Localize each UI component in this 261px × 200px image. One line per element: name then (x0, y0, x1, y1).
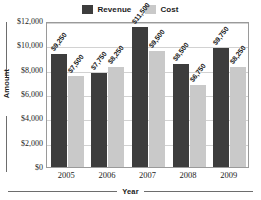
bar-revenue-2008 (173, 64, 189, 167)
x-axis-rule-right (144, 191, 253, 192)
bar-value-label: $9,500 (147, 29, 165, 50)
bar-value-label: $7,500 (66, 53, 84, 74)
y-axis-tick-label: $2,000 (3, 140, 43, 148)
bar-value-label: $8,250 (229, 44, 247, 65)
bar-group: $9,250$7,500 (51, 23, 84, 167)
bar-revenue-2009 (213, 48, 229, 167)
bar-value-label: $9,250 (49, 32, 67, 53)
legend-swatch-revenue (82, 5, 93, 14)
bar-chart: Revenue Cost Amount $0$2,000$4,000$6,000… (0, 0, 261, 200)
legend-entry-revenue: Revenue (82, 5, 131, 14)
bar-value-label: $8,500 (171, 41, 189, 62)
y-axis-tick-label: $0 (3, 164, 43, 172)
bar-group: $9,750$8,250 (213, 23, 246, 167)
bar-cost-2009 (230, 67, 246, 167)
x-axis-tick-label: 2005 (46, 170, 86, 180)
x-axis-tick-label: 2007 (128, 170, 168, 180)
x-axis-tick-label: 2006 (87, 170, 127, 180)
y-axis-tick-label: $12,000 (3, 18, 43, 26)
y-axis-tick-label: $10,000 (3, 42, 43, 50)
x-axis-title-group: Year (8, 186, 253, 197)
bar-cost-2006 (108, 67, 124, 167)
y-axis-tick-label: $4,000 (3, 115, 43, 123)
x-axis-tick-label: 2008 (168, 170, 208, 180)
y-axis-tick-label: $6,000 (3, 91, 43, 99)
bar-group: $11,500$9,500 (132, 23, 165, 167)
bar-value-label: $8,250 (107, 44, 125, 65)
bar-series-container: $9,250$7,500$7,750$8,250$11,500$9,500$8,… (47, 23, 248, 167)
bar-group: $7,750$8,250 (91, 23, 124, 167)
x-axis-rule-left (8, 191, 117, 192)
y-axis-tick-label: $8,000 (3, 67, 43, 75)
legend-label-cost: Cost (160, 5, 178, 14)
x-axis-title: Year (122, 187, 139, 197)
bar-value-label: $6,750 (188, 62, 206, 83)
legend-label-revenue: Revenue (97, 5, 131, 14)
bar-cost-2005 (68, 76, 84, 167)
bar-revenue-2007 (132, 27, 148, 167)
plot-area: $9,250$7,500$7,750$8,250$11,500$9,500$8,… (46, 22, 249, 168)
bar-value-label: $9,750 (212, 26, 230, 47)
bar-revenue-2006 (91, 73, 107, 167)
bar-cost-2008 (190, 85, 206, 167)
x-axis-tick-labels: 20052006200720082009 (46, 170, 249, 182)
bar-group: $8,500$6,750 (173, 23, 206, 167)
bar-cost-2007 (149, 51, 165, 167)
bar-revenue-2005 (51, 54, 67, 167)
x-axis-tick-label: 2009 (209, 170, 249, 180)
y-axis-tick-labels: $0$2,000$4,000$6,000$8,000$10,000$12,000 (0, 0, 43, 200)
